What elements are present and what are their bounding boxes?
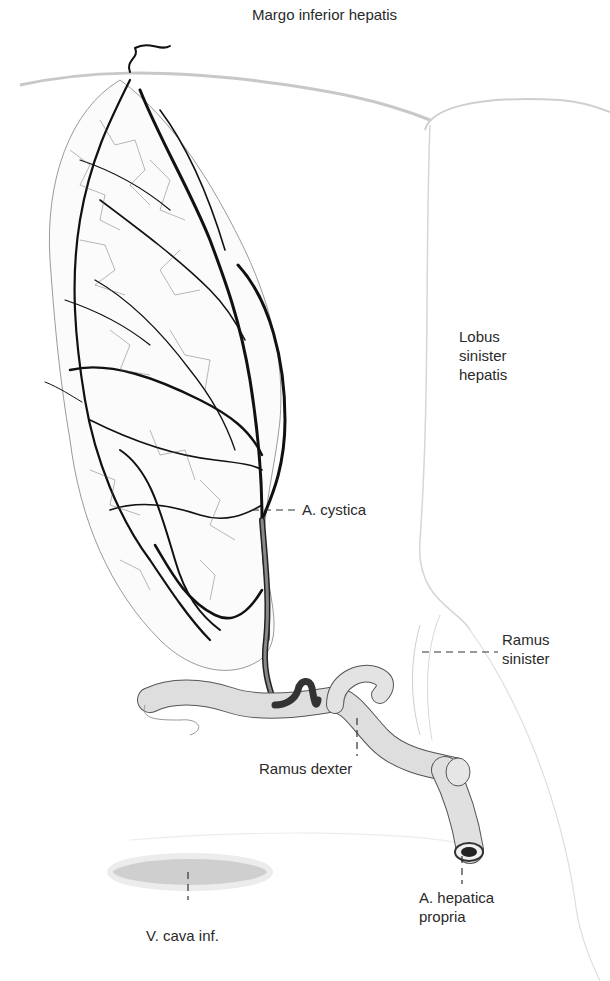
label-line: sinister bbox=[459, 346, 507, 365]
label-margo-inferior-hepatis: Margo inferior hepatis bbox=[252, 5, 397, 24]
label-lobus-sinister-hepatis: Lobus sinister hepatis bbox=[459, 327, 507, 384]
hepatica-bulge bbox=[446, 758, 470, 786]
label-a-hepatica-propria: A. hepatica propria bbox=[419, 888, 494, 926]
label-line: propria bbox=[419, 907, 494, 926]
illustration bbox=[0, 0, 610, 981]
anatomy-figure: Margo inferior hepatis Lobus sinister he… bbox=[0, 0, 610, 981]
label-line: Lobus bbox=[459, 327, 507, 346]
label-v-cava-inf: V. cava inf. bbox=[146, 926, 219, 945]
label-line: hepatis bbox=[459, 365, 507, 384]
vena-cava-shape bbox=[110, 856, 270, 888]
right-border-outline bbox=[470, 630, 600, 981]
label-line: sinister bbox=[502, 649, 550, 668]
lower-liver-outline bbox=[130, 833, 470, 845]
liver-margin-outline bbox=[20, 73, 430, 120]
lobus-sinister-outline bbox=[425, 99, 610, 130]
label-line: Ramus bbox=[502, 630, 550, 649]
label-ramus-sinister: Ramus sinister bbox=[502, 630, 550, 668]
label-line: A. hepatica bbox=[419, 888, 494, 907]
label-ramus-dexter: Ramus dexter bbox=[259, 759, 352, 778]
label-a-cystica: A. cystica bbox=[302, 500, 366, 519]
